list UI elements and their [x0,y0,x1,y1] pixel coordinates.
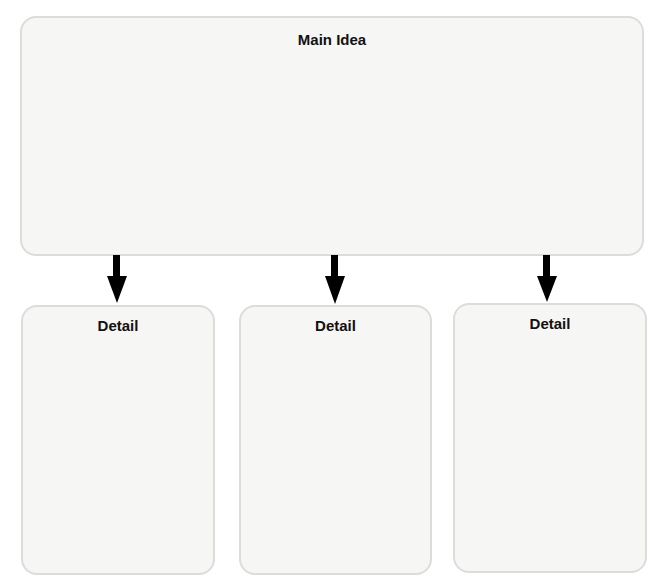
detail-label: Detail [455,315,645,332]
detail-box-1: Detail [21,305,215,575]
arrow-down-icon [534,255,560,305]
arrow-down-icon [104,255,130,305]
arrow-down-icon [322,255,348,305]
detail-label: Detail [23,317,213,334]
detail-box-3: Detail [453,303,647,573]
main-idea-box: Main Idea [20,16,644,256]
detail-box-2: Detail [239,305,432,575]
main-idea-label: Main Idea [22,31,642,48]
detail-label: Detail [241,317,430,334]
